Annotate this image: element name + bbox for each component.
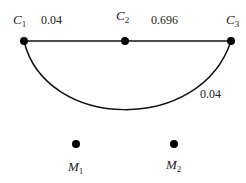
weight-c2-c3: 0.696 <box>151 13 178 27</box>
node-c1 <box>20 37 28 45</box>
node-m2 <box>170 140 178 148</box>
label-m2: M2 <box>165 157 181 174</box>
label-c1: C1 <box>13 12 26 29</box>
weight-c1-c3-arc: 0.04 <box>200 87 221 101</box>
node-m1 <box>72 140 80 148</box>
label-c2: C2 <box>116 8 129 25</box>
node-c2 <box>121 37 129 45</box>
node-c3 <box>227 37 235 45</box>
weight-c1-c2: 0.04 <box>41 13 62 27</box>
label-c3: C3 <box>226 12 240 29</box>
graph-diagram: C1 C2 C3 M1 M2 0.04 0.696 0.04 <box>0 0 246 183</box>
label-m1: M1 <box>67 159 83 176</box>
